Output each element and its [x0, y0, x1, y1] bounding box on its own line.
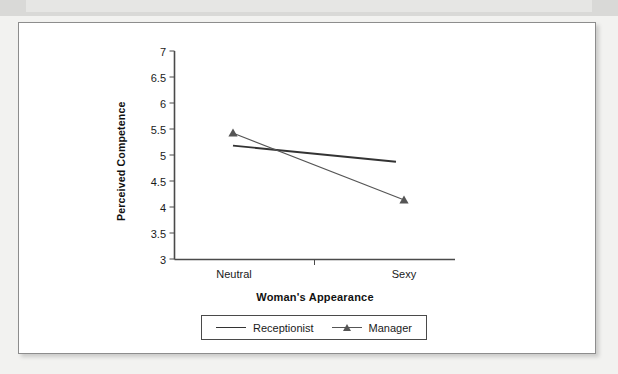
series-manager-marker-sexy	[399, 196, 408, 204]
chart-legend: Receptionist Manager	[201, 315, 427, 340]
legend-label-manager: Manager	[369, 322, 412, 334]
legend-label-receptionist: Receptionist	[253, 322, 314, 334]
series-receptionist-line	[233, 146, 396, 162]
series-manager-line	[234, 134, 403, 200]
scan-top-band-inner	[26, 0, 592, 12]
page-background: Perceived Competence 7 6.5 6 5.5 5 4.5 4…	[0, 0, 618, 374]
legend-entry-manager: Manager	[332, 322, 412, 334]
scan-top-band	[0, 0, 618, 16]
line-chart: Perceived Competence 7 6.5 6 5.5 5 4.5 4…	[19, 23, 597, 355]
plot-area	[19, 23, 597, 355]
x-tick-label-sexy: Sexy	[371, 269, 437, 280]
legend-entry-receptionist: Receptionist	[216, 322, 314, 334]
legend-triangle-swatch-icon	[332, 323, 362, 333]
x-tick-label-neutral: Neutral	[201, 269, 267, 280]
figure-card: Perceived Competence 7 6.5 6 5.5 5 4.5 4…	[18, 22, 596, 354]
x-axis-title: Woman's Appearance	[174, 291, 456, 303]
legend-line-swatch-icon	[216, 323, 246, 333]
series-manager-marker-neutral	[228, 129, 237, 137]
